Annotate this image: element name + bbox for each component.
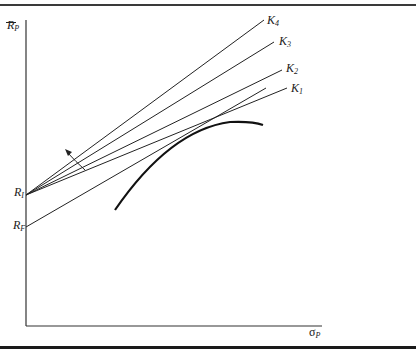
- bottom-rule: [0, 346, 416, 349]
- rotation-arrow: [67, 152, 85, 170]
- label-k3: K3: [279, 35, 291, 49]
- y-axis-label: RP: [7, 19, 19, 33]
- label-k2: K2: [286, 62, 298, 76]
- label-k4: K4: [267, 14, 279, 28]
- line-rf: [26, 88, 266, 227]
- x-axis-label: σP: [309, 326, 320, 340]
- frontier-curve: [115, 122, 263, 210]
- line-k4: [26, 20, 264, 195]
- diagram-canvas: [0, 0, 416, 353]
- arrow-head-icon: [65, 149, 72, 156]
- label-k1: K1: [291, 82, 303, 96]
- intercept-ri: RI: [14, 186, 24, 200]
- line-k3: [26, 42, 274, 195]
- line-k1: [26, 88, 287, 195]
- line-k2: [26, 70, 282, 195]
- intercept-rf: RF: [13, 219, 25, 233]
